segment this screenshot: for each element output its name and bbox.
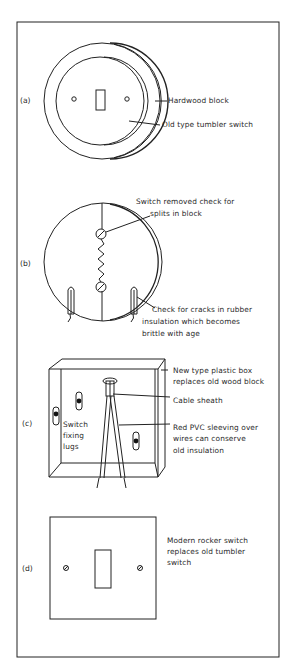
callout-check-cracks: Check for cracks in rubber <box>152 304 252 315</box>
panel-d-drawing <box>50 517 156 619</box>
callout-brittle-with-age: brittle with age <box>142 328 200 339</box>
callout-switch: switch <box>167 557 191 568</box>
screw-icon <box>72 97 76 101</box>
callout-switch-removed: Switch removed check for <box>136 196 234 207</box>
panel-a-drawing <box>44 43 168 159</box>
rocker-toggle <box>95 550 111 588</box>
callout-red-pvc-sleeving: Red PVC sleeving over <box>173 422 258 433</box>
callout-switch-lugs-1: Switch <box>63 419 88 430</box>
screw-icon <box>125 97 129 101</box>
panel-label-c: (c) <box>22 419 32 428</box>
panel-label-b: (b) <box>20 259 31 268</box>
callout-cable-sheath: Cable sheath <box>173 395 223 406</box>
hardwood-block-outline <box>44 43 160 159</box>
panel-label-d: (d) <box>22 564 33 573</box>
tumbler-switch-plate <box>56 57 144 145</box>
callout-insulation-brittle: insulation which becomes <box>142 316 240 327</box>
callout-wires-conserve: wires can conserve <box>173 433 246 444</box>
callout-replaces-tumbler: replaces old tumbler <box>167 546 245 557</box>
callout-modern-rocker: Modern rocker switch <box>167 535 248 546</box>
callout-splits-in-block: splits in block <box>150 208 202 219</box>
panel-b-drawing <box>44 203 162 322</box>
callout-old-tumbler-switch: Old type tumbler switch <box>162 119 253 130</box>
wood-block-outline <box>44 203 162 321</box>
callout-replaces-wood-block: replaces old wood block <box>173 376 264 387</box>
wiring-switch-diagram: (a) (b) (c) (d) Hardwood block Old type … <box>0 0 291 672</box>
tumbler-toggle <box>96 90 105 110</box>
callout-switch-lugs-2: fixing <box>63 430 84 441</box>
figure-frame <box>17 22 279 657</box>
callout-hardwood-block: Hardwood block <box>168 95 229 106</box>
panel-label-a: (a) <box>20 96 31 105</box>
callout-old-insulation: old insulation <box>173 445 224 456</box>
callout-new-plastic-box: New type plastic box <box>173 365 252 376</box>
callout-switch-lugs-3: lugs <box>63 441 79 452</box>
